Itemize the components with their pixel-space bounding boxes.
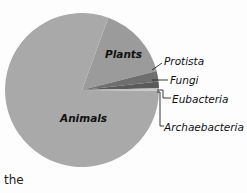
callout-label-eubacteria: Eubacteria bbox=[172, 93, 228, 105]
slice-label-plants: Plants bbox=[105, 48, 142, 60]
callout-label-fungi: Fungi bbox=[170, 74, 199, 86]
callout-label-archaebacteria: Archaebacteria bbox=[163, 121, 244, 133]
pie-chart: PlantsAnimalsProtistaFungiEubacteriaArch… bbox=[0, 0, 247, 193]
callout-label-protista: Protista bbox=[164, 55, 204, 67]
caption-text: the bbox=[4, 173, 24, 187]
leader-line-eubacteria bbox=[157, 90, 171, 98]
slice-label-animals: Animals bbox=[59, 112, 107, 124]
